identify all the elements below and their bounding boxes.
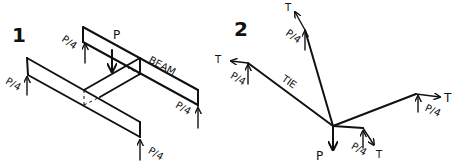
svg-text:T: T xyxy=(214,54,222,65)
svg-text:P/4: P/4 xyxy=(229,70,248,87)
svg-text:T: T xyxy=(375,149,383,160)
load-arrow-p: P xyxy=(112,28,120,72)
diagram-canvas: 1 P BEAM xyxy=(0,0,456,168)
figure-1-beam-grillage: 1 P BEAM xyxy=(4,23,198,162)
reaction-front-left: P/4 xyxy=(4,75,27,95)
tie-member xyxy=(248,63,333,126)
svg-text:P/4: P/4 xyxy=(146,145,165,162)
reaction-front-right: P/4 xyxy=(140,140,166,162)
reaction-arrows: P/4 P/4 P/4 P/4 xyxy=(229,27,443,157)
figure-2-ties: 2 TIE T T T T P P/4 xyxy=(214,2,452,163)
svg-text:P/4: P/4 xyxy=(350,140,369,157)
svg-text:P/4: P/4 xyxy=(4,75,23,92)
reaction-back-left: P/4 xyxy=(60,33,85,63)
svg-text:P/4: P/4 xyxy=(424,102,443,119)
svg-text:P/4: P/4 xyxy=(60,33,79,51)
load-label: P xyxy=(113,28,120,42)
svg-text:T: T xyxy=(284,2,292,13)
svg-text:P: P xyxy=(316,149,323,163)
svg-text:T: T xyxy=(443,91,452,105)
figure-2-number: 2 xyxy=(234,17,248,41)
beam-label: BEAM xyxy=(147,54,177,77)
svg-text:P/4: P/4 xyxy=(284,27,303,45)
figure-1-number: 1 xyxy=(12,23,26,47)
load-arrow-p: P xyxy=(316,127,333,163)
svg-text:P/4: P/4 xyxy=(174,99,193,116)
ties xyxy=(248,30,416,128)
